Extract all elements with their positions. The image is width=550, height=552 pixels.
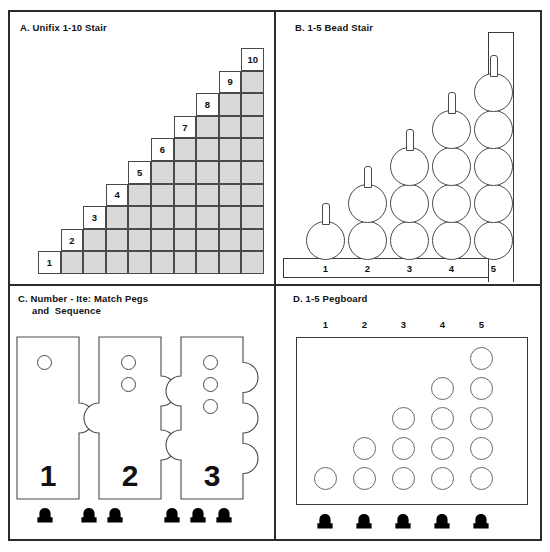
peg[interactable] <box>80 507 98 525</box>
unifix-cell <box>128 206 151 229</box>
unifix-cell <box>219 251 242 274</box>
pegboard-pegs <box>275 285 550 541</box>
bead-stick <box>406 129 414 151</box>
unifix-cell <box>196 116 219 139</box>
unifix-cell <box>128 251 151 274</box>
bead <box>390 147 429 186</box>
unifix-cell <box>241 93 264 116</box>
unifix-stair: 12345678910 <box>0 10 274 285</box>
unifix-cell <box>196 229 219 252</box>
unifix-cell <box>174 161 197 184</box>
unifix-cell-label: 7 <box>174 116 197 139</box>
unifix-cell-label: 8 <box>196 93 219 116</box>
bead <box>390 221 429 260</box>
unifix-cell <box>151 184 174 207</box>
unifix-cell <box>174 206 197 229</box>
bead <box>474 110 513 149</box>
unifix-cell <box>241 229 264 252</box>
bead <box>348 184 387 223</box>
unifix-cell <box>219 93 242 116</box>
unifix-cell <box>151 251 174 274</box>
bead <box>306 221 345 260</box>
peg[interactable] <box>189 507 207 525</box>
unifix-cell-label: 5 <box>128 161 151 184</box>
panel-d: D. 1-5 Pegboard 12345 <box>275 285 550 541</box>
unifix-cell <box>174 251 197 274</box>
peg[interactable] <box>316 513 334 531</box>
unifix-cell <box>151 161 174 184</box>
unifix-cell <box>106 206 129 229</box>
panel-a: A. Unifix 1-10 Stair 12345678910 <box>0 10 274 285</box>
unifix-cell <box>219 184 242 207</box>
unifix-cell <box>241 184 264 207</box>
unifix-cell <box>241 71 264 94</box>
peg[interactable] <box>472 513 490 531</box>
bead <box>432 147 471 186</box>
bead-stick <box>364 166 372 188</box>
unifix-cell <box>128 184 151 207</box>
unifix-cell <box>151 229 174 252</box>
unifix-cell <box>196 251 219 274</box>
bead <box>432 184 471 223</box>
peg[interactable] <box>215 507 233 525</box>
bead <box>474 73 513 112</box>
unifix-cell <box>196 161 219 184</box>
peg[interactable] <box>163 507 181 525</box>
unifix-cell <box>219 206 242 229</box>
unifix-cell-label: 2 <box>61 229 84 252</box>
unifix-cell <box>174 229 197 252</box>
unifix-cell <box>219 138 242 161</box>
bead <box>348 221 387 260</box>
panel-c: C. Number - Ite: Match Pegs and Sequence… <box>0 285 274 541</box>
bead-stick <box>322 203 330 225</box>
match-peg-pegs <box>0 285 274 541</box>
unifix-cell <box>151 206 174 229</box>
unifix-cell <box>61 251 84 274</box>
unifix-cell <box>128 229 151 252</box>
unifix-cell <box>219 116 242 139</box>
bead <box>390 184 429 223</box>
bead <box>474 184 513 223</box>
unifix-cell-label: 9 <box>219 71 242 94</box>
peg[interactable] <box>106 507 124 525</box>
unifix-cell-label: 6 <box>151 138 174 161</box>
bead-stair <box>275 10 550 285</box>
unifix-cell <box>196 138 219 161</box>
unifix-cell <box>241 251 264 274</box>
unifix-cell <box>241 116 264 139</box>
unifix-cell <box>241 206 264 229</box>
unifix-cell <box>241 138 264 161</box>
unifix-cell <box>219 161 242 184</box>
bead <box>432 110 471 149</box>
bead-stick <box>448 92 456 114</box>
unifix-cell <box>196 184 219 207</box>
unifix-cell <box>83 229 106 252</box>
unifix-cell <box>83 251 106 274</box>
unifix-cell <box>219 229 242 252</box>
unifix-cell <box>196 206 219 229</box>
bead-stick <box>490 55 498 77</box>
peg[interactable] <box>394 513 412 531</box>
unifix-cell-label: 10 <box>241 48 264 71</box>
peg[interactable] <box>36 507 54 525</box>
unifix-cell-label: 4 <box>106 184 129 207</box>
bead <box>474 221 513 260</box>
unifix-cell <box>106 251 129 274</box>
unifix-cell <box>174 184 197 207</box>
unifix-cell <box>174 138 197 161</box>
unifix-cell-label: 3 <box>83 206 106 229</box>
panel-b: B. 1-5 Bead Stair 12345 <box>275 10 550 285</box>
bead <box>432 221 471 260</box>
peg[interactable] <box>433 513 451 531</box>
figure-sheet: A. Unifix 1-10 Stair 12345678910 B. 1-5 … <box>0 0 550 552</box>
unifix-cell <box>106 229 129 252</box>
unifix-cell-label: 1 <box>38 251 61 274</box>
bead <box>474 147 513 186</box>
unifix-cell <box>241 161 264 184</box>
peg[interactable] <box>355 513 373 531</box>
